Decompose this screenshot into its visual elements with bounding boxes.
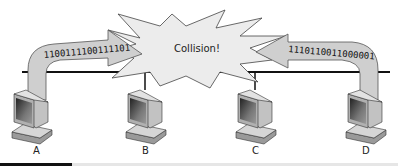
computer-c-icon: [236, 90, 276, 144]
node-label-d: D: [362, 145, 370, 156]
node-label-a: A: [33, 145, 40, 156]
footer-bar-dark: [0, 163, 72, 166]
collision-label: Collision!: [174, 43, 220, 54]
computer-d-icon: [346, 90, 386, 144]
arrow-from-a: [28, 30, 142, 100]
computer-b-icon: [126, 90, 166, 144]
footer-bar-light: [72, 163, 398, 166]
node-label-c: C: [252, 145, 259, 156]
collision-diagram: 1100111100111101 1110110011000001 Collis…: [0, 0, 398, 166]
node-label-b: B: [142, 145, 149, 156]
